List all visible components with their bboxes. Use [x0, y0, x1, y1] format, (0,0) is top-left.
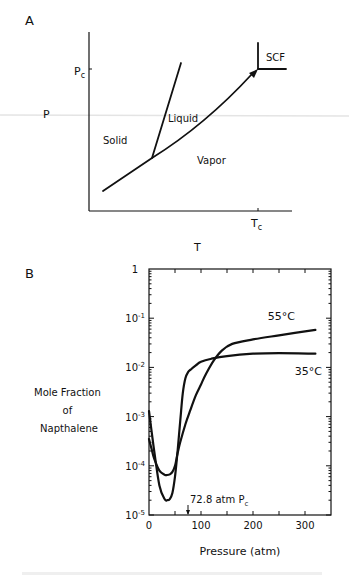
- panel-b-x-label: Pressure (atm): [200, 545, 281, 558]
- y-tick-base: 10: [125, 313, 138, 324]
- y-tick-base: 10: [125, 510, 138, 521]
- series-35c-label: 35°C: [295, 365, 322, 378]
- y-tick-base: 10: [125, 412, 138, 423]
- panel-a-y-label: P: [43, 108, 50, 121]
- pc-arrow-head: [186, 510, 190, 515]
- figure: A Pc Tc P T Solid Liquid Vapor SCF B 110…: [0, 0, 349, 578]
- pc-label-sub: c: [81, 71, 85, 80]
- y-tick-label: 1: [132, 264, 138, 275]
- pc-label: Pc: [74, 65, 85, 80]
- y-tick-base: 10: [125, 362, 138, 373]
- panel-b-curves: 35°C55°C: [149, 310, 322, 500]
- panel-b-x-tick-labels: 0100200300: [146, 520, 315, 531]
- panel-b: B 110-110-210-310-410-5 0100200300 35°C5…: [25, 264, 331, 558]
- y-tick-exponent: -1: [138, 312, 145, 320]
- y-tick-label: 10-4: [125, 460, 145, 472]
- y-tick-label: 10-3: [125, 411, 145, 423]
- pc-annotation: 72.8 atm Pc: [190, 494, 248, 508]
- pc-annotation-sub: c: [244, 500, 248, 508]
- y-tick-label: 10-5: [125, 509, 145, 521]
- panel-b-y-label: Mole Fraction of Napthalene: [34, 387, 104, 434]
- series-55c-label: 55°C: [268, 310, 295, 323]
- x-tick-label: 100: [191, 520, 210, 531]
- panel-b-label: B: [25, 266, 34, 281]
- y-tick-exponent: -2: [138, 361, 145, 369]
- y-tick-exponent: -5: [138, 509, 145, 517]
- melting-curve: [152, 63, 181, 158]
- y-label-line-2: of: [63, 405, 73, 416]
- y-tick-exponent: -3: [138, 411, 145, 419]
- y-tick-exponent: -4: [138, 460, 146, 468]
- panel-b-ticks: [149, 269, 331, 515]
- region-vapor: Vapor: [197, 155, 227, 166]
- pc-annotation-main: 72.8 atm P: [190, 494, 244, 505]
- region-liquid: Liquid: [168, 113, 198, 124]
- y-tick-base: 10: [125, 461, 138, 472]
- series-55c-line: [149, 330, 315, 475]
- x-tick-label: 300: [295, 520, 314, 531]
- panel-b-plot-frame: [149, 269, 331, 515]
- panel-a-label: A: [25, 13, 34, 28]
- y-label-line-1: Mole Fraction: [34, 387, 101, 398]
- tc-label-sub: c: [258, 223, 262, 232]
- panel-a: A Pc Tc P T Solid Liquid Vapor SCF: [25, 13, 292, 254]
- x-tick-label: 200: [243, 520, 262, 531]
- caption-remnant: [22, 572, 322, 575]
- y-tick-label: 10-1: [125, 312, 145, 324]
- tc-label: Tc: [250, 217, 262, 232]
- y-label-line-3: Napthalene: [40, 423, 98, 434]
- x-tick-label: 0: [146, 520, 152, 531]
- region-scf: SCF: [266, 52, 285, 63]
- panel-a-x-label: T: [193, 241, 201, 254]
- panel-b-y-tick-labels: 110-110-210-310-410-5: [125, 264, 145, 521]
- series-35c-line: [149, 353, 315, 500]
- coexistence-curve: [103, 74, 252, 191]
- region-solid: Solid: [103, 135, 127, 146]
- y-tick-label: 10-2: [125, 361, 145, 373]
